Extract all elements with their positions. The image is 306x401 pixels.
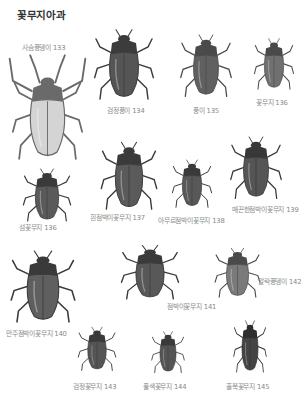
beetle-illustration-138 <box>168 150 216 210</box>
specimen-label: 매끈한점박이꽃무지 139 <box>232 204 299 214</box>
beetle-illustration-144 <box>148 323 188 375</box>
specimen-label: 사슴풍뎅이 133 <box>22 42 65 52</box>
specimen-label: 검정풍이 134 <box>107 105 145 115</box>
specimen-label: 흰점박이꽃무지 137 <box>90 212 145 222</box>
beetle-illustration-139 <box>225 124 287 202</box>
specimen-label: 꽃무지 136 <box>256 97 288 107</box>
specimen-label: 섬꽃무지 136 <box>19 222 57 232</box>
beetle-illustration-142 <box>210 238 265 300</box>
specimen-label: 알락풍뎅이 142 <box>258 276 301 286</box>
specimen-label: 점박이꽃무지 141 <box>167 301 216 311</box>
specimen-label: 홀쭉꽃무지 145 <box>226 381 269 391</box>
specimen-label: 만주점박이꽃무지 140 <box>6 328 67 338</box>
specimen-label: 풀색꽃무지 144 <box>143 381 186 391</box>
specimen-label: 풍이 135 <box>193 105 219 115</box>
beetle-illustration-137 <box>95 128 163 213</box>
beetle-illustration-133 <box>5 52 90 164</box>
beetle-illustration-143 <box>74 318 120 373</box>
specimen-label: 검정꽃무지 143 <box>73 381 116 391</box>
beetle-illustration-135 <box>175 22 237 100</box>
beetle-illustration-145 <box>230 310 270 375</box>
specimen-label: 아무르점박이꽃무지 138 <box>158 215 225 225</box>
beetle-illustration-140 <box>4 236 82 326</box>
beetle-illustration-134 <box>88 15 160 103</box>
beetle-illustration-141 <box>115 234 185 302</box>
beetle-illustration-136b <box>18 158 76 224</box>
beetle-illustration-136a <box>250 28 298 92</box>
page-title: 꽃무지아과 <box>17 7 66 22</box>
